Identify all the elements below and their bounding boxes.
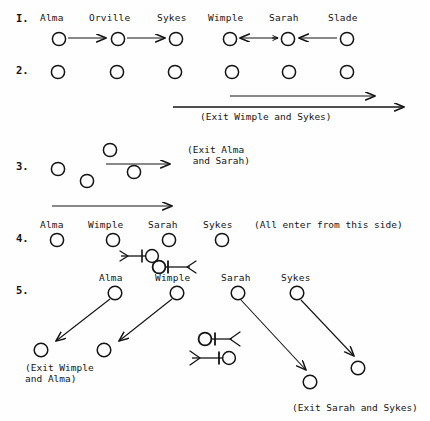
actor-circle-1-r2 (51, 65, 64, 78)
note-exit-alma-sarah-line1: (Exit Alma (187, 144, 244, 156)
step-number-4: 4. (16, 232, 29, 244)
actor-circle-3-r2 (168, 65, 181, 78)
note-exit-alma-sarah-line2: and Sarah) (187, 155, 250, 167)
row3-group (51, 143, 172, 206)
blocking-diagram-page: I. 2. 3. 4. 5. Alma Orville Sykes Wimple… (0, 0, 430, 421)
label-sykes-r1: Sykes (157, 12, 187, 23)
actor-circle-sarah-r1 (281, 32, 294, 45)
blocked-arrow-left-r5 (199, 332, 240, 346)
label-alma-r4: Alma (40, 219, 64, 230)
actor-circle-sykes-r4 (215, 233, 228, 246)
note-all-enter-this-side: (All enter from this side) (254, 219, 403, 231)
label-wimple-r1: Wimple (208, 12, 244, 23)
actor-circle-sykes-r5 (290, 286, 304, 300)
actor-circle-3-r3 (103, 143, 116, 156)
actor-circle-wimple-r5 (170, 286, 184, 300)
note-exit-wimple-sykes: (Exit Wimple and Sykes) (200, 111, 332, 123)
move-arrow-sykes-exit-r5 (301, 300, 354, 356)
label-sarah-r1: Sarah (269, 12, 299, 23)
actor-circle-exit-sykes-r5 (351, 361, 365, 375)
note-exit-wimple-alma-line2: and Alma) (25, 373, 76, 385)
label-sarah-r4: Sarah (148, 219, 178, 230)
actor-circle-4-r3 (127, 165, 140, 178)
label-sykes-r5: Sykes (281, 272, 311, 283)
actor-circle-1-r3 (51, 162, 64, 175)
actor-circle-alma-r5 (108, 286, 122, 300)
label-sarah-r5: Sarah (221, 272, 251, 283)
step-number-1: I. (16, 12, 29, 24)
actor-circle-wimple-r1 (223, 32, 236, 45)
step-number-2: 2. (16, 64, 29, 76)
label-alma-r5: Alma (99, 272, 123, 283)
label-wimple-r5: Wimple (155, 272, 191, 283)
actor-circle-exit-sarah-r5 (303, 375, 317, 389)
row2-group (51, 65, 404, 107)
actor-circle-exit-alma-r5 (97, 343, 111, 357)
actor-circle-6-r2 (340, 65, 353, 78)
actor-circle-orville-r1 (111, 32, 124, 45)
actor-circle-sarah-r4 (162, 233, 175, 246)
step-number-5: 5. (16, 284, 29, 296)
move-arrow-sarah-exit-r5 (241, 300, 306, 370)
row4-group (50, 233, 228, 273)
row1-group (52, 32, 353, 45)
step-number-3: 3. (16, 160, 29, 172)
actor-circle-alma-r1 (52, 32, 65, 45)
actor-circle-sarah-r5 (231, 286, 245, 300)
actor-circle-exit-wimple-r5 (34, 343, 48, 357)
label-orville-r1: Orville (89, 12, 130, 23)
actor-circle-alma-r4 (50, 233, 63, 246)
move-arrow-alma-exit-r5 (56, 299, 110, 341)
note-exit-wimple-alma-line1: (Exit Wimple (25, 362, 94, 374)
label-slade-r1: Slade (328, 12, 358, 23)
blocked-arrow-right-r4 (120, 250, 158, 263)
actor-circle-2-r3 (80, 174, 93, 187)
actor-circle-4-r2 (225, 65, 238, 78)
actor-circle-5-r2 (282, 65, 295, 78)
label-alma-r1: Alma (40, 12, 64, 23)
actor-circle-wimple-r4 (106, 233, 119, 246)
actor-circle-2-r2 (110, 65, 123, 78)
note-exit-sarah-sykes: (Exit Sarah and Sykes) (292, 402, 418, 414)
label-wimple-r4: Wimple (88, 219, 124, 230)
label-sykes-r4: Sykes (203, 219, 233, 230)
actor-circle-sykes-r1 (169, 32, 182, 45)
diagram-canvas (0, 0, 430, 421)
blocked-arrow-right-r5 (190, 351, 235, 365)
actor-circle-slade-r1 (340, 32, 353, 45)
move-arrow-wimple-exit-r5 (119, 299, 172, 341)
